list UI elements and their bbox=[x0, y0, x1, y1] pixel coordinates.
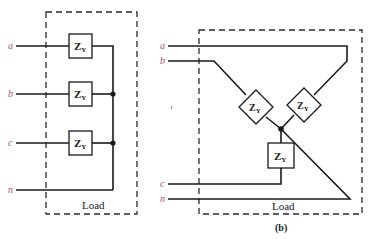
wire-left-to-node bbox=[266, 117, 281, 129]
impedance-box-bottom: ZY bbox=[268, 143, 294, 168]
terminal-a-label: a bbox=[8, 40, 13, 51]
caption-b: (b) bbox=[275, 222, 287, 234]
impedance-zb: ZY bbox=[69, 82, 92, 106]
neutral-node-dot bbox=[278, 126, 284, 132]
wire-b bbox=[168, 61, 246, 95]
terminal-a-label: a bbox=[160, 40, 165, 51]
terminal-n-label: n bbox=[160, 193, 165, 204]
wire-a bbox=[168, 46, 347, 95]
stray-mark bbox=[171, 106, 172, 109]
load-label-b: Load bbox=[272, 200, 295, 212]
diagram-b: ZY ZY ZY a b c n Load (b) bbox=[160, 30, 362, 234]
wire-c bbox=[168, 168, 281, 184]
terminal-c-label: c bbox=[160, 178, 165, 189]
impedance-za: ZY bbox=[69, 34, 92, 58]
terminal-b-label: b bbox=[160, 55, 165, 66]
wire-right-to-node bbox=[281, 115, 294, 129]
load-label-a: Load bbox=[82, 199, 105, 211]
terminal-c-label: c bbox=[8, 137, 13, 148]
terminal-n-label: n bbox=[8, 184, 13, 195]
neutral-bus-a bbox=[92, 46, 113, 190]
diagram-a: ZY ZY ZY a b c n Load bbox=[8, 12, 137, 214]
junction-dot bbox=[110, 140, 115, 145]
impedance-zc: ZY bbox=[69, 131, 92, 155]
wye-load-diagrams: ZY ZY ZY a b c n Load bbox=[0, 0, 368, 239]
wire-n bbox=[168, 129, 350, 199]
junction-dot bbox=[110, 91, 115, 96]
terminal-b-label: b bbox=[8, 88, 13, 99]
